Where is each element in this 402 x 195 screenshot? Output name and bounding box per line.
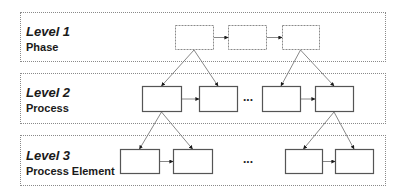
node-process-4 <box>316 87 354 112</box>
node-element-4 <box>336 150 374 174</box>
edge-phase-3-to-process-3 <box>281 50 301 86</box>
node-element-2 <box>174 150 213 174</box>
node-phase-2 <box>229 26 267 50</box>
edge-process-4-to-element-4 <box>334 112 354 149</box>
node-element-1 <box>121 150 160 174</box>
node-phase-3 <box>283 26 320 50</box>
edge-phase-1-to-process-1 <box>162 50 195 86</box>
edge-process-4-to-element-3 <box>304 112 335 149</box>
edge-process-1-to-element-2 <box>162 112 193 149</box>
node-element-3 <box>286 150 323 174</box>
edge-phase-3-to-process-4 <box>301 50 335 86</box>
hierarchy-diagram <box>0 0 402 195</box>
edge-process-1-to-element-1 <box>140 112 162 149</box>
node-process-2 <box>200 87 238 112</box>
node-process-1 <box>143 87 182 112</box>
node-process-3 <box>263 87 301 112</box>
nodes-layer <box>121 26 374 174</box>
node-phase-1 <box>176 26 214 50</box>
edge-phase-1-to-process-2 <box>194 50 218 86</box>
